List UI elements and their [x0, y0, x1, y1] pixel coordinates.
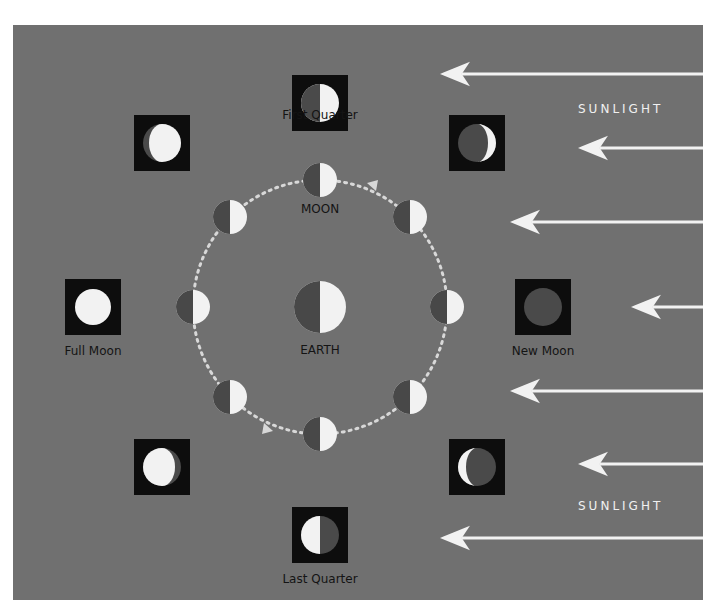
sunlight-arrow-icon: [582, 139, 703, 157]
moon-icon: [303, 163, 337, 197]
moon-icon: [303, 417, 337, 451]
sunlight-arrow-icon: [444, 65, 703, 83]
moon-icon: [176, 290, 210, 324]
moon-phases-diagram: First Quarter Full Moon New Moon Last Qu…: [13, 25, 703, 600]
label-earth: EARTH: [300, 343, 340, 357]
label-full-moon: Full Moon: [65, 344, 122, 358]
orbit-direction-arrow-icon: [367, 180, 378, 191]
label-moon: MOON: [301, 202, 339, 216]
phase-last-quarter-icon: [292, 507, 348, 563]
moon-icon: [213, 200, 247, 234]
phase-new-moon-icon: [515, 279, 571, 335]
phase-waxing-gibbous-icon: [134, 115, 190, 171]
label-last-quarter: Last Quarter: [282, 572, 357, 586]
label-sunlight-bottom: SUNLIGHT: [578, 499, 663, 513]
phase-waning-gibbous-icon: [134, 439, 190, 495]
phase-first-quarter-icon: [292, 75, 348, 131]
orbit-direction-arrow-icon: [262, 423, 273, 434]
label-sunlight-top: SUNLIGHT: [578, 102, 663, 116]
moon-icon: [430, 290, 464, 324]
phase-full-moon-icon: [65, 279, 121, 335]
earth-icon: [294, 281, 346, 333]
phase-waning-crescent-icon: [449, 439, 505, 495]
moon-icon: [213, 380, 247, 414]
sunlight-arrow-icon: [514, 382, 703, 400]
label-new-moon: New Moon: [512, 344, 575, 358]
sunlight-arrow-icon: [582, 455, 703, 473]
label-first-quarter: First Quarter: [282, 108, 357, 122]
moon-icon: [393, 200, 427, 234]
moon-icon: [393, 380, 427, 414]
sunlight-arrow-icon: [514, 213, 703, 231]
sunlight-arrow-icon: [635, 298, 703, 316]
phase-waxing-crescent-icon: [449, 115, 505, 171]
sunlight-arrow-icon: [444, 529, 703, 547]
